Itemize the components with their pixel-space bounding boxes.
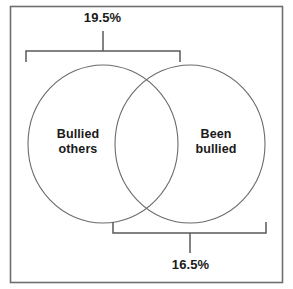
set-label-bullied-others-line2: others (59, 142, 98, 156)
percent-label-bullied-others: 19.5% (0, 10, 205, 25)
set-label-been-bullied-line2: bullied (196, 142, 237, 156)
percent-label-been-bullied: 16.5% (88, 257, 293, 272)
set-label-bullied-others-line1: Bullied (57, 127, 99, 141)
set-label-been-bullied: Been bullied (156, 127, 276, 156)
set-label-bullied-others: Bullied others (18, 127, 138, 156)
venn-diagram-figure: 19.5% Bullied others Been bullied 16.5% (0, 0, 293, 289)
set-label-been-bullied-line1: Been (201, 127, 232, 141)
